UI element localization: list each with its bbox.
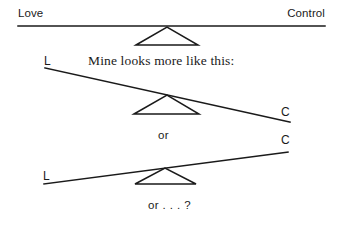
love-heavy-scale-right-label: C (281, 134, 290, 146)
or-caption-first: or (158, 130, 169, 142)
balanced-scale-left-label: Love (18, 8, 43, 20)
intro-caption: Mine looks more like this: (88, 54, 234, 68)
balanced-scale-right-label: Control (264, 8, 325, 20)
balanced-scale-fulcrum-icon (136, 27, 198, 45)
love-control-seesaw-figure: Love Control Mine looks more like this: … (0, 0, 339, 227)
control-heavy-scale-right-label: C (281, 106, 290, 118)
love-heavy-scale-left-label: L (43, 170, 50, 182)
or-caption-second: or . . . ? (148, 200, 191, 212)
control-heavy-scale-fulcrum-icon (134, 95, 199, 114)
control-heavy-scale-left-label: L (44, 55, 51, 67)
